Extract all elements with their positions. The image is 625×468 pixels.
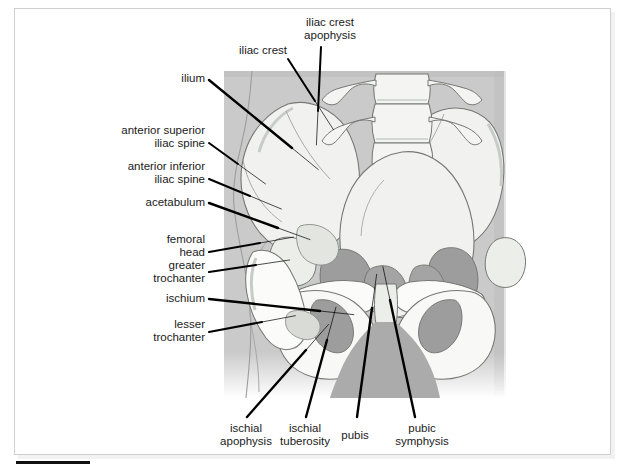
label-greater-trochanter: greatertrochanter (153, 259, 205, 284)
label-iliac-crest: iliac crest (239, 44, 287, 57)
figure-page: iliac crestiliac crestapophysisiliumante… (0, 0, 625, 468)
label-lesser-trochanter-line-2: trochanter (153, 331, 205, 344)
label-iliac-crest-line-1: iliac crest (239, 44, 287, 57)
label-ischium: ischium (166, 292, 205, 305)
label-femoral-head-line-2: head (167, 246, 205, 259)
label-greater-trochanter-line-1: greater (153, 259, 205, 272)
label-iliac-crest-apophysis: iliac crestapophysis (270, 16, 390, 41)
label-acetabulum: acetabulum (146, 196, 205, 209)
label-lesser-trochanter-line-1: lesser (153, 318, 205, 331)
label-pubic-symphysis: pubicsymphysis (362, 422, 482, 447)
label-femoral-head: femoralhead (167, 233, 205, 258)
label-lesser-trochanter: lessertrochanter (153, 318, 205, 343)
label-pubic-symphysis-line-2: symphysis (362, 435, 482, 448)
label-iliac-crest-apophysis-line-2: apophysis (270, 29, 390, 42)
label-pubic-symphysis-line-1: pubic (362, 422, 482, 435)
label-femoral-head-line-1: femoral (167, 233, 205, 246)
label-anterior-inferior-iliac-spine-line-1: anterior inferior (128, 160, 205, 173)
label-ischium-line-1: ischium (166, 292, 205, 305)
label-ilium-line-1: ilium (181, 72, 205, 85)
bone-right-femur (485, 238, 525, 288)
label-anterior-superior-iliac-spine-line-2: iliac spine (121, 137, 205, 150)
label-anterior-superior-iliac-spine: anterior superioriliac spine (121, 124, 205, 149)
label-anterior-inferior-iliac-spine: anterior inferioriliac spine (128, 160, 205, 185)
label-acetabulum-line-1: acetabulum (146, 196, 205, 209)
label-anterior-superior-iliac-spine-line-1: anterior superior (121, 124, 205, 137)
label-iliac-crest-apophysis-line-1: iliac crest (270, 16, 390, 29)
pelvis-anatomy-illustration (0, 0, 625, 468)
label-anterior-inferior-iliac-spine-line-2: iliac spine (128, 173, 205, 186)
label-greater-trochanter-line-2: trochanter (153, 272, 205, 285)
label-ilium: ilium (181, 72, 205, 85)
